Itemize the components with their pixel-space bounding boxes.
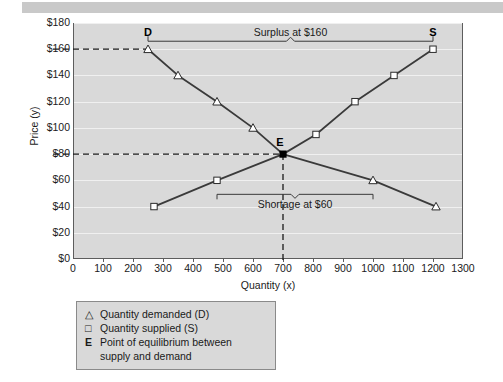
legend-item-label: Quantity demanded (D) (100, 308, 209, 321)
legend-item-0: △Quantity demanded (D) (85, 308, 267, 321)
supply-point-480 (214, 177, 220, 183)
legend-item-label: Quantity supplied (S) (100, 322, 198, 335)
supply-point-940 (352, 98, 358, 104)
legend-item-1: □Quantity supplied (S) (85, 322, 267, 335)
equilibrium-point (279, 151, 286, 158)
shortage-label: Shortage at $60 (258, 198, 333, 210)
equilibrium-label: E (276, 136, 283, 148)
equilibrium-icon: E (85, 336, 100, 349)
legend-item-label-line2: supply and demand (100, 350, 267, 363)
supply-point-1070 (391, 72, 397, 78)
demand-point-480 (213, 97, 221, 105)
triangle-icon: △ (85, 308, 100, 321)
surplus-label: Surplus at $160 (254, 26, 328, 38)
supply-point-1200 (430, 46, 436, 52)
supply-point-270 (151, 203, 157, 209)
chart-legend: △Quantity demanded (D)□Quantity supplied… (76, 301, 276, 370)
square-icon: □ (85, 322, 100, 335)
legend-item-label: Point of equilibrium between (100, 336, 232, 349)
supply-demand-chart: $0$20$40$60$80$100$120$140$160$180 Price… (0, 0, 503, 382)
supply-point-810 (313, 131, 319, 137)
legend-item-2: EPoint of equilibrium between (85, 336, 267, 349)
